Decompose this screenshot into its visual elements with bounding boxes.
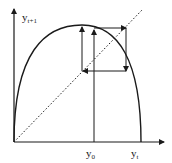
- map-curve: [14, 25, 141, 142]
- y-axis-label: yt+1: [22, 11, 37, 25]
- identity-diagonal: [14, 9, 143, 142]
- x0-label: y0: [86, 147, 96, 161]
- x-axis-label: yt: [131, 147, 139, 161]
- cobweb-diagram: yt+1 y0 yt: [0, 0, 172, 163]
